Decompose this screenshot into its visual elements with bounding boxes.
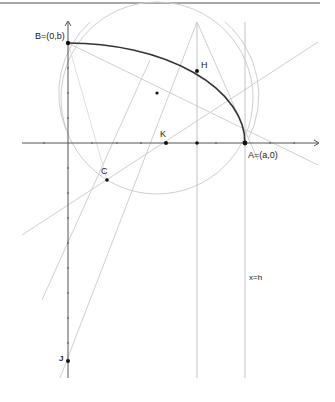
construction-circle-lower bbox=[61, 2, 253, 194]
line-C-K-ext bbox=[22, 42, 318, 235]
point-C[interactable] bbox=[105, 178, 109, 182]
line-B-A bbox=[68, 43, 318, 165]
label-C: C bbox=[101, 167, 108, 176]
label-K: K bbox=[160, 130, 166, 139]
label-A: A=(a,0) bbox=[248, 151, 278, 160]
line-through-H-apex bbox=[60, 22, 197, 378]
point-B[interactable] bbox=[66, 41, 70, 45]
line-B-C bbox=[68, 43, 107, 180]
point-M[interactable] bbox=[155, 91, 158, 94]
label-B: B=(0,b) bbox=[35, 32, 65, 41]
geometry-canvas bbox=[0, 0, 335, 402]
point-H[interactable] bbox=[195, 69, 199, 73]
point-Hx[interactable] bbox=[195, 141, 199, 145]
point-J[interactable] bbox=[66, 359, 70, 363]
label-line-x-h: x=h bbox=[249, 274, 262, 282]
point-A[interactable] bbox=[243, 141, 248, 146]
point-K[interactable] bbox=[164, 141, 168, 145]
label-H: H bbox=[201, 61, 208, 70]
label-J: J bbox=[59, 355, 63, 363]
line-C-steep bbox=[42, 60, 150, 300]
line-apex-A bbox=[197, 22, 258, 160]
